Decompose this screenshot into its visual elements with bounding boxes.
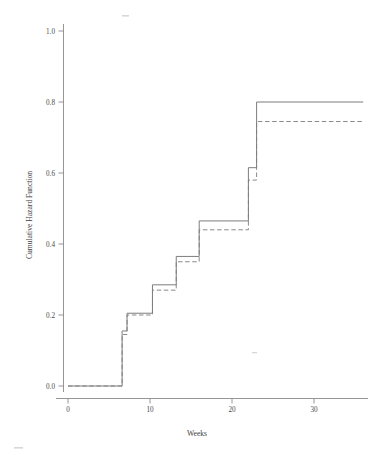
y-ticklabel-5: 1.0 xyxy=(46,28,55,36)
y-ticklabel-0: 0.0 xyxy=(46,383,55,391)
dashed-step-curve xyxy=(68,122,363,386)
y-ticklabel-1: 0.2 xyxy=(46,312,55,320)
y-axis-label: Cumulative Hazard Function xyxy=(25,171,34,259)
chart-figure: 1.0 0.8 0.6 0.4 0.2 0.0 0 10 20 30 Cumul… xyxy=(0,0,376,455)
x-ticklabel-0: 0 xyxy=(66,406,70,414)
y-ticklabel-3: 0.6 xyxy=(46,170,55,178)
scan-speck-b xyxy=(122,15,129,17)
scan-speck-c xyxy=(14,447,23,449)
solid-step-curve xyxy=(68,102,363,386)
x-ticklabel-30: 30 xyxy=(310,406,318,414)
cumulative-hazard-plot: 1.0 0.8 0.6 0.4 0.2 0.0 0 10 20 30 Cumul… xyxy=(0,0,376,455)
x-ticks-group xyxy=(68,399,314,404)
x-ticklabel-10: 10 xyxy=(146,406,154,414)
y-ticklabel-4: 0.8 xyxy=(46,99,55,107)
axes-group xyxy=(56,24,368,399)
x-ticklabels-group: 0 10 20 30 xyxy=(66,406,318,414)
scan-speck-a xyxy=(252,352,257,353)
x-axis-label: Weeks xyxy=(187,429,207,438)
y-ticklabels-group: 1.0 0.8 0.6 0.4 0.2 0.0 xyxy=(46,28,55,391)
x-ticklabel-20: 20 xyxy=(228,406,236,414)
y-ticklabel-2: 0.4 xyxy=(46,241,55,249)
y-ticks-group xyxy=(59,31,64,386)
